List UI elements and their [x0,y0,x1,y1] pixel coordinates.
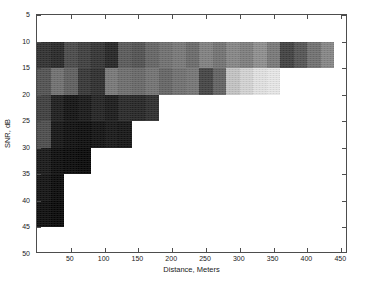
y-tick-label: 15 [22,64,30,71]
y-tick-label: 35 [22,170,30,177]
heatmap-cell [226,42,240,69]
y-axis-title-text: SNR, dB [4,119,13,148]
heatmap-cell [118,42,132,69]
y-tick [37,121,41,122]
y-tick-label: 40 [22,196,30,203]
x-tick-label: 150 [132,255,144,262]
heatmap-cell [145,42,159,69]
x-axis-title: Distance, Meters [36,265,347,274]
heatmap-cell [145,95,159,122]
x-tick [240,248,241,252]
x-tick-label: 350 [267,255,279,262]
heatmap-cell [159,42,173,69]
heatmap-cell [37,174,51,201]
heatmap-cell [51,68,65,95]
x-tick-top [105,15,106,19]
x-tick-top [307,15,308,19]
y-tick-right [342,201,346,202]
heatmap-cell [199,42,213,69]
x-tick-label: 300 [233,255,245,262]
heatmap-cell [37,148,51,175]
x-tick [105,248,106,252]
x-tick [274,248,275,252]
heatmap-cell [64,121,78,148]
x-tick-top [71,15,72,19]
y-tick-right [342,148,346,149]
heatmap-cell [51,121,65,148]
y-tick [37,68,41,69]
heatmap-cell [186,68,200,95]
heatmap-cell [199,68,213,95]
figure: 50100150200250300350400450 5101520253035… [0,0,367,288]
y-tick-label: 50 [22,250,30,257]
heatmap-cell [321,42,335,69]
x-tick [206,248,207,252]
heatmap-cell [132,42,146,69]
y-tick [37,227,41,228]
heatmap-cell [78,42,92,69]
x-tick-label: 250 [199,255,211,262]
x-tick-top [138,15,139,19]
heatmap-cell [267,42,281,69]
x-tick-top [274,15,275,19]
x-tick-top [172,15,173,19]
x-tick-label: 200 [165,255,177,262]
heatmap-cell [64,42,78,69]
heatmap-cell [78,121,92,148]
y-axis-title: SNR, dB [2,14,14,253]
heatmap-cell [91,42,105,69]
heatmap-cell [91,95,105,122]
y-tick [37,15,41,16]
y-tick-label: 30 [22,143,30,150]
x-tick-label: 450 [334,255,346,262]
x-tick-top [206,15,207,19]
heatmap-cell [51,42,65,69]
y-tick-label: 20 [22,90,30,97]
heatmap-cell [37,68,51,95]
heatmap-cell [91,121,105,148]
heatmap-cell [172,68,186,95]
heatmap-cell [159,68,173,95]
heatmap-cell [105,68,119,95]
x-tick [341,248,342,252]
heatmap-cell [240,42,254,69]
x-tick [172,248,173,252]
heatmap-cell [64,68,78,95]
heatmap-cell [105,121,119,148]
heatmap-cell [118,121,132,148]
x-tick [307,248,308,252]
x-tick-label: 100 [98,255,110,262]
y-tick-label: 25 [22,117,30,124]
heatmap-cell [64,95,78,122]
heatmap-cell [132,95,146,122]
heatmap-cell [267,68,281,95]
y-tick-right [342,68,346,69]
x-tick [138,248,139,252]
y-tick-label: 10 [22,37,30,44]
heatmap-cell [226,68,240,95]
heatmap-cell [145,68,159,95]
heatmap-cell [105,42,119,69]
heatmap-cell [51,174,65,201]
heatmap-cell [213,42,227,69]
y-tick-label: 45 [22,223,30,230]
y-tick-right [342,42,346,43]
heatmap-cell [118,68,132,95]
heatmap-cells [37,15,346,252]
heatmap-cell [78,148,92,175]
heatmap-cell [253,42,267,69]
y-tick-right [342,95,346,96]
heatmap-cell [186,42,200,69]
x-tick [71,248,72,252]
y-tick-right [342,15,346,16]
y-tick-label: 5 [26,11,30,18]
heatmap-cell [78,95,92,122]
heatmap-cell [280,42,294,69]
heatmap-cell [37,95,51,122]
heatmap-cell [51,148,65,175]
y-tick [37,148,41,149]
heatmap-cell [51,95,65,122]
y-tick-right [342,227,346,228]
heatmap-cell [132,68,146,95]
x-tick-label: 50 [66,255,74,262]
